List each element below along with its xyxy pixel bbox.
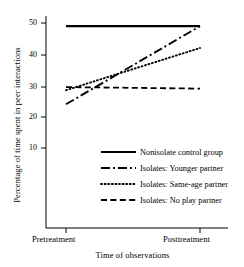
y-axis-title: Percentage of time spent in peer interac… (12, 25, 22, 225)
x-tick-label-posttreatment: Posttreatment (163, 234, 210, 244)
series-line-isolates-same-age-partner (66, 48, 200, 90)
series-line-isolates-no-play-partner (66, 87, 200, 89)
line-chart-canvas: Nonisolate control group Isolates: Young… (0, 0, 244, 267)
y-tick-marks (41, 23, 46, 148)
x-tick-marks (66, 228, 200, 233)
x-tick-label-pretreatment: Pretreatment (32, 234, 75, 244)
x-axis-title: Time of observations (40, 250, 225, 260)
legend-label-1: Isolates: Younger partner (140, 164, 223, 173)
legend-swatches (101, 152, 136, 200)
chart-figure: Nonisolate control group Isolates: Young… (0, 0, 244, 267)
legend-label-0: Nonisolate control group (140, 148, 223, 157)
legend-label-2: Isolates: Same-age partner (140, 180, 228, 189)
legend-label-3: Isolates: No play partner (140, 196, 222, 205)
series-line-isolates-younger-partner (66, 26, 200, 104)
data-series-layer (66, 26, 200, 104)
